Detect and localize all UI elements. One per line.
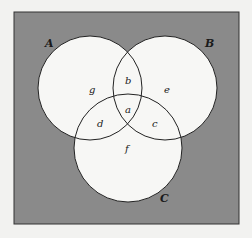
region-label-a: a xyxy=(125,104,131,115)
venn-diagram: A B C g b e a d c f xyxy=(0,0,252,238)
set-label-c: C xyxy=(160,192,169,205)
region-label-d: d xyxy=(97,118,103,129)
set-label-b: B xyxy=(204,37,214,50)
region-label-g: g xyxy=(89,84,95,95)
region-label-e: e xyxy=(164,84,170,95)
region-label-c: c xyxy=(152,118,158,129)
region-label-b: b xyxy=(125,75,131,86)
set-label-a: A xyxy=(44,37,54,50)
